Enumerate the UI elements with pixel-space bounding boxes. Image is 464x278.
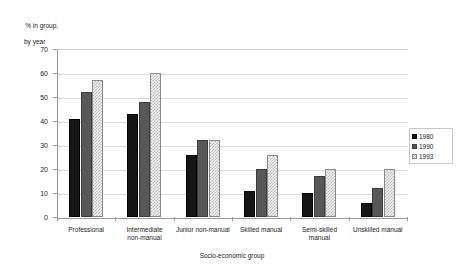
bar-group (232, 49, 290, 217)
bar-1990 (197, 140, 208, 217)
bar-group (349, 49, 407, 217)
y-axis-tick-label: 10 (24, 190, 48, 197)
bar-group (290, 49, 348, 217)
bar-1993 (384, 169, 395, 217)
x-axis-tick-mark (290, 217, 291, 221)
legend-swatch-icon (412, 144, 417, 149)
bar-group (57, 49, 115, 217)
y-axis-title-line1: % in group, (25, 22, 58, 29)
legend-swatch-icon (412, 154, 417, 159)
bar-group (174, 49, 232, 217)
bar-1993 (150, 73, 161, 217)
bar-1990 (314, 176, 325, 217)
y-axis-tick-label: 70 (24, 46, 48, 53)
bar-1980 (69, 119, 80, 217)
legend-label: 1993 (419, 153, 433, 160)
bar-1980 (244, 191, 255, 217)
bar-1993 (92, 80, 103, 217)
legend-item-1993: 1993 (412, 151, 450, 161)
bar-1993 (209, 140, 220, 217)
bar-1993 (267, 155, 278, 217)
bar-groups (57, 49, 407, 217)
bar-1993 (325, 169, 336, 217)
x-axis-tick-mark (232, 217, 233, 221)
bar-chart: % in group, by year 010203040506070 Prof… (0, 0, 464, 278)
x-axis-tick-mark (174, 217, 175, 221)
x-axis-tick-mark (407, 217, 408, 221)
y-axis-tick-label: 0 (24, 214, 48, 221)
bar-1980 (361, 203, 372, 217)
legend-label: 1990 (419, 143, 433, 150)
bar-1980 (186, 155, 197, 217)
bar-1990 (81, 92, 92, 217)
legend-item-1990: 1990 (412, 141, 450, 151)
y-axis-tick-label: 60 (24, 70, 48, 77)
legend: 198019901993 (409, 128, 453, 164)
bar-group (115, 49, 173, 217)
legend-item-1980: 1980 (412, 131, 450, 141)
x-axis-tick-mark (349, 217, 350, 221)
bar-1980 (127, 114, 138, 217)
y-axis-tick-label: 20 (24, 166, 48, 173)
legend-label: 1980 (419, 133, 433, 140)
y-axis-tick-label: 50 (24, 94, 48, 101)
legend-swatch-icon (412, 134, 417, 139)
bar-1990 (256, 169, 267, 217)
y-axis-title: % in group, by year (18, 14, 58, 62)
y-axis-tick-label: 30 (24, 142, 48, 149)
bar-1990 (372, 188, 383, 217)
bar-1990 (139, 102, 150, 217)
x-axis-tick-mark (57, 217, 58, 221)
x-axis-tick-mark (115, 217, 116, 221)
y-axis-tick-label: 40 (24, 118, 48, 125)
x-axis-title: Socio-economic group (0, 252, 464, 260)
bar-1980 (302, 193, 313, 217)
x-axis-category-label: Unskilled manual (343, 226, 413, 234)
